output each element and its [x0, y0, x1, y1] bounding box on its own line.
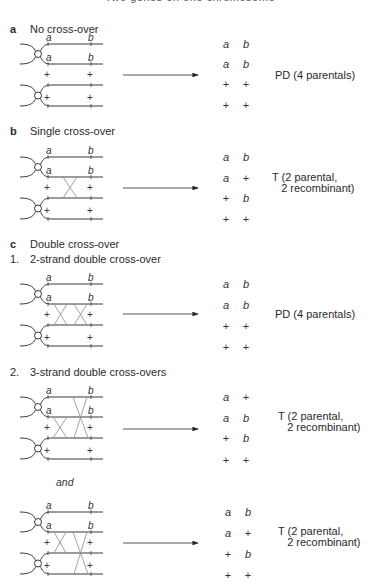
bivalent-single-crossover	[20, 145, 103, 221]
genotype-cell: b	[241, 432, 251, 444]
genotype-cell: +	[221, 192, 231, 204]
genotype-cell: a	[221, 38, 231, 50]
genotype-cell: +	[221, 213, 231, 225]
result-b: T (2 parental, 2 recombinant)	[272, 172, 355, 194]
genotype-cell: a	[221, 299, 231, 311]
genotype-cell: +	[241, 172, 251, 184]
result-a: PD (4 parentals)	[275, 70, 355, 81]
genotype-cell: +	[241, 391, 251, 403]
genotype-cell: a	[221, 412, 231, 424]
genotype-cell: +	[221, 78, 231, 90]
genotype-cell: +	[223, 548, 233, 560]
genotype-cell: +	[221, 320, 231, 332]
result-c1: PD (4 parentals)	[275, 309, 355, 320]
genotype-cell: b	[241, 299, 251, 311]
genotype-cell: +	[221, 432, 231, 444]
bivalent-3-strand-double-1	[20, 385, 103, 461]
genotype-cell: a	[223, 527, 233, 539]
genotype-cell: b	[241, 278, 251, 290]
genotype-cell: a	[223, 506, 233, 518]
genotype-cell: +	[241, 320, 251, 332]
result-c2: T (2 parental, 2 recombinant)	[278, 411, 361, 433]
crossover-diagrams: a b a b + + + +	[0, 0, 380, 588]
genotype-cell: b	[241, 151, 251, 163]
genotype-cell: +	[241, 99, 251, 111]
genotype-cell: b	[241, 412, 251, 424]
genotype-cell: +	[243, 569, 253, 581]
genotype-cell: a	[221, 172, 231, 184]
genotype-cell: a	[221, 278, 231, 290]
genotype-cell: +	[241, 78, 251, 90]
bivalent-3-strand-double-2	[20, 500, 103, 576]
genotype-cell: +	[221, 341, 231, 353]
genotype-cell: b	[241, 192, 251, 204]
bivalent-no-crossover	[20, 32, 103, 108]
genotype-cell: +	[223, 569, 233, 581]
genotype-cell: b	[241, 58, 251, 70]
genotype-cell: +	[243, 527, 253, 539]
genotype-cell: b	[241, 38, 251, 50]
genotype-cell: b	[243, 548, 253, 560]
genotype-cell: +	[221, 99, 231, 111]
genotype-cell: a	[221, 58, 231, 70]
result-c3: T (2 parental, 2 recombinant)	[278, 526, 361, 548]
genotype-cell: a	[221, 391, 231, 403]
genotype-cell: +	[221, 454, 231, 466]
genotype-cell: +	[241, 341, 251, 353]
genotype-cell: b	[243, 506, 253, 518]
genotype-cell: +	[241, 213, 251, 225]
genotype-cell: +	[241, 454, 251, 466]
bivalent-2-strand-double	[20, 272, 103, 348]
genotype-cell: a	[221, 151, 231, 163]
